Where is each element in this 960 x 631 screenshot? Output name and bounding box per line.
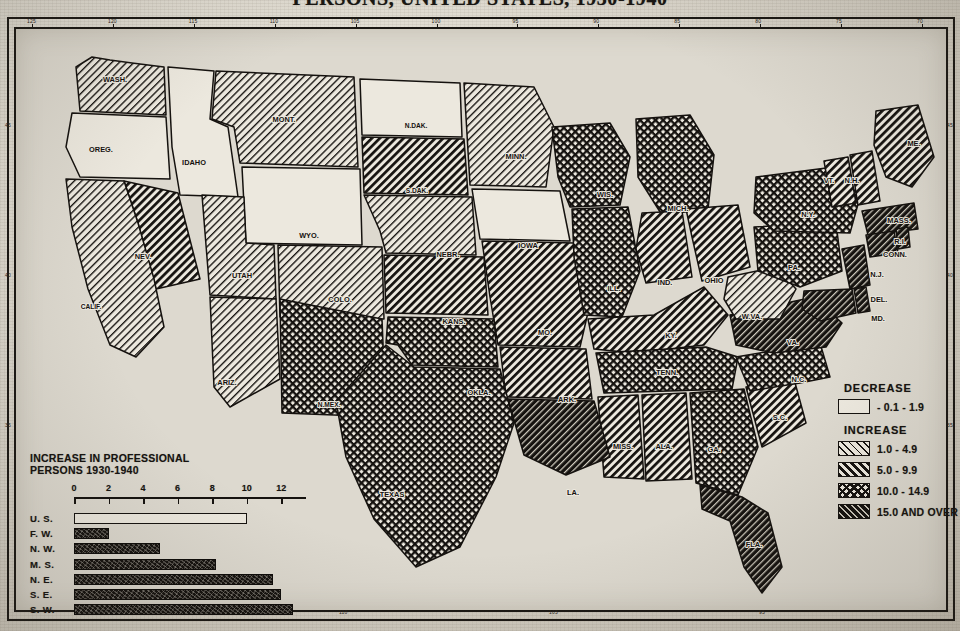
state-label: TENN. bbox=[656, 368, 678, 377]
chart-title: INCREASE IN PROFESSIONAL PERSONS 1930-19… bbox=[30, 452, 312, 476]
state-kans[interactable] bbox=[384, 255, 488, 315]
legend-row-white[interactable]: - 0.1 - 1.9 bbox=[838, 398, 950, 415]
legend-row-hatch1[interactable]: 1.0 - 4.9 bbox=[838, 440, 950, 457]
state-wash[interactable] bbox=[76, 57, 166, 115]
state-label: S.DAK. bbox=[406, 187, 429, 194]
legend-swatch-hatch2 bbox=[838, 462, 870, 477]
legend-label: 10.0 - 14.9 bbox=[877, 485, 929, 497]
state-label: NEV. bbox=[135, 252, 152, 261]
chart-bar-row: N. E. bbox=[30, 574, 302, 585]
state-label: NEBR. bbox=[437, 250, 460, 259]
chart-tick-label: 6 bbox=[175, 483, 180, 493]
chart-tick bbox=[178, 499, 180, 504]
state-oreg[interactable] bbox=[66, 113, 170, 179]
chart-bar bbox=[74, 589, 281, 600]
chart-bar-row: M. S. bbox=[30, 559, 302, 570]
chart-tick-label: 10 bbox=[242, 483, 252, 493]
chart-tick bbox=[212, 499, 214, 504]
chart-tick bbox=[109, 499, 111, 504]
legend-row-dense[interactable]: 15.0 AND OVER bbox=[838, 503, 950, 520]
state-minn[interactable] bbox=[464, 83, 554, 187]
state-me[interactable] bbox=[874, 105, 934, 187]
state-ind[interactable] bbox=[636, 211, 692, 283]
chart-bar-label: F. W. bbox=[30, 528, 70, 539]
ruler-longitude-bottom: 105 bbox=[549, 609, 558, 615]
state-label: DEL. bbox=[871, 295, 888, 304]
state-fla[interactable] bbox=[700, 485, 782, 593]
state-label: R.I. bbox=[894, 237, 906, 246]
legend-swatch-dense bbox=[838, 504, 870, 519]
chart-plot-area: 024681012 U. S.F. W.N. W.M. S.N. E.S. E.… bbox=[30, 483, 302, 607]
chart-bar-row: S. W. bbox=[30, 604, 302, 615]
state-label: ALA. bbox=[655, 442, 672, 451]
state-label: CALIF. bbox=[81, 303, 102, 310]
legend-group-decrease: - 0.1 - 1.9 bbox=[838, 398, 950, 415]
legend-heading-decrease: DECREASE bbox=[844, 382, 950, 394]
chart-bar-label: S. W. bbox=[30, 604, 70, 615]
state-ala[interactable] bbox=[642, 393, 692, 481]
state-label: CONN. bbox=[883, 250, 907, 259]
state-label: LA. bbox=[567, 488, 579, 497]
chart-bar-label: S. E. bbox=[30, 589, 70, 600]
legend-row-cross[interactable]: 10.0 - 14.9 bbox=[838, 482, 950, 499]
state-ariz[interactable] bbox=[210, 297, 280, 407]
chart-bar-row: S. E. bbox=[30, 589, 302, 600]
state-label: W.VA. bbox=[742, 312, 762, 321]
chart-tick-label: 8 bbox=[210, 483, 215, 493]
state-iowa[interactable] bbox=[472, 189, 570, 241]
state-label: VA. bbox=[787, 338, 799, 347]
state-wis[interactable] bbox=[552, 123, 630, 207]
state-ill[interactable] bbox=[572, 207, 640, 317]
chart-tick bbox=[143, 499, 145, 504]
state-label: MINN. bbox=[506, 152, 527, 161]
legend-row-hatch2[interactable]: 5.0 - 9.9 bbox=[838, 461, 950, 478]
state-label: VT. bbox=[824, 176, 835, 185]
state-label: PA. bbox=[788, 263, 800, 272]
state-label: IDAHO bbox=[182, 158, 206, 167]
state-label: ME. bbox=[907, 139, 920, 148]
state-mich[interactable] bbox=[636, 115, 714, 215]
chart-title-line1: INCREASE IN PROFESSIONAL bbox=[30, 452, 312, 464]
legend-heading-increase: INCREASE bbox=[844, 424, 950, 436]
ruler-latitude: 40 bbox=[5, 272, 11, 278]
state-label: N.H. bbox=[845, 176, 860, 185]
chart-tick-label: 12 bbox=[276, 483, 286, 493]
chart-bar bbox=[74, 528, 109, 539]
state-label: ARK. bbox=[558, 395, 576, 404]
ruler-longitude-bottom: 110 bbox=[339, 609, 348, 615]
map-legend: DECREASE - 0.1 - 1.9 INCREASE 1.0 - 4.95… bbox=[838, 382, 950, 524]
chart-bar-label: N. E. bbox=[30, 574, 70, 585]
state-ohio[interactable] bbox=[686, 205, 750, 281]
state-label: MD. bbox=[871, 314, 885, 323]
page-title: PERSONS, UNITED STATES, 1930-1940 bbox=[0, 0, 960, 10]
state-label: TEXAS bbox=[380, 490, 405, 499]
ruler-latitude: 40 bbox=[947, 272, 953, 278]
state-ark[interactable] bbox=[500, 347, 592, 399]
chart-bar bbox=[74, 604, 293, 615]
chart-bar-row: N. W. bbox=[30, 543, 302, 554]
state-label: MICH. bbox=[668, 204, 689, 213]
state-label: KY. bbox=[665, 331, 677, 340]
state-nj[interactable] bbox=[842, 245, 870, 289]
state-del[interactable] bbox=[854, 287, 870, 313]
state-label: WASH. bbox=[103, 75, 127, 84]
ruler-longitude-bottom: 95 bbox=[759, 609, 765, 615]
chart-tick bbox=[74, 499, 76, 504]
chart-tick bbox=[247, 499, 249, 504]
ruler-latitude: 35 bbox=[5, 422, 11, 428]
state-la[interactable] bbox=[508, 399, 610, 475]
chart-bar-label: M. S. bbox=[30, 559, 70, 570]
chart-tick-label: 0 bbox=[71, 483, 76, 493]
chart-bar bbox=[74, 543, 160, 554]
chart-title-line2: PERSONS 1930-1940 bbox=[30, 464, 312, 476]
state-label: COLO. bbox=[328, 295, 351, 304]
state-ga[interactable] bbox=[690, 389, 758, 495]
state-label: ILL. bbox=[607, 284, 620, 293]
state-texas[interactable] bbox=[336, 345, 514, 567]
state-nebr[interactable] bbox=[364, 195, 476, 255]
legend-swatch-hatch1 bbox=[838, 441, 870, 456]
state-label: KANS. bbox=[443, 317, 466, 326]
legend-swatch-cross bbox=[838, 483, 870, 498]
chart-bar-row: F. W. bbox=[30, 528, 302, 539]
legend-label: 5.0 - 9.9 bbox=[877, 464, 917, 476]
